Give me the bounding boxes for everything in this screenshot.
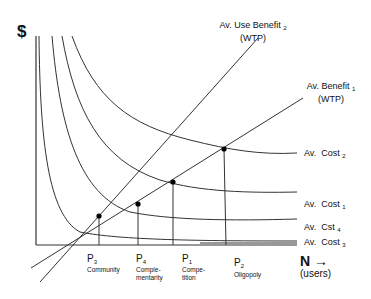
label-text: Av. Cst [304, 222, 335, 232]
y-axis-label: $ [17, 22, 26, 42]
p4-point [135, 201, 140, 206]
label-line2: (WTP) [318, 94, 344, 104]
desc-line1: Comple- [136, 266, 161, 273]
av-cost-3-label: Av. Cost 3 [304, 237, 346, 250]
p3-description: Community [87, 266, 120, 274]
point-letter: P [87, 253, 94, 264]
label-subscript: 3 [342, 242, 345, 248]
av-benefit-1-label: Av. Benefit 1 (WTP) [296, 81, 366, 104]
desc-line2: mentarity [136, 274, 163, 281]
p3-label: P3 [87, 253, 97, 265]
p1-point [170, 179, 175, 184]
desc-line1: Oligopoly [234, 271, 261, 278]
av-cost-1-curve [62, 36, 297, 192]
p2-point [221, 146, 226, 151]
p1-label: P1 [182, 253, 192, 265]
av-cst-4-label: Av. Cst 4 [304, 222, 341, 235]
label-text: Av. Cost [304, 148, 340, 158]
p2-label: P2 [234, 257, 244, 269]
p4-label: P4 [136, 253, 146, 265]
label-subscript: 2 [342, 153, 345, 159]
point-letter: P [182, 253, 189, 264]
label-text: Av. Benefit [307, 81, 350, 91]
point-subscript: 4 [143, 259, 146, 265]
x-axis-label: N → [300, 253, 328, 269]
p2-description: Oligopoly [234, 271, 261, 279]
label-subscript: 1 [342, 204, 345, 210]
p2-dropline [224, 149, 226, 245]
p4-description: Comple- mentarity [136, 266, 163, 282]
p1-description: Compe- tition [182, 266, 205, 282]
point-subscript: 2 [241, 263, 244, 269]
label-subscript: 4 [337, 227, 340, 233]
desc-line1: Community [87, 266, 120, 273]
p3-point [96, 213, 101, 218]
av-use-benefit-2-label: Av. Use Benefit 2 (WTP) [198, 20, 308, 43]
desc-line2: tition [182, 274, 196, 281]
x-axis-sublabel: (users) [300, 268, 331, 279]
av-cost-2-label: Av. Cost 2 [304, 148, 346, 161]
point-letter: P [136, 253, 143, 264]
label-subscript: 2 [283, 25, 286, 31]
point-subscript: 3 [94, 259, 97, 265]
point-letter: P [234, 257, 241, 268]
point-subscript: 1 [189, 259, 192, 265]
label-text: Av. Use Benefit [219, 20, 280, 30]
av-cost-2-curve [72, 36, 297, 153]
label-text: Av. Cost [304, 199, 340, 209]
label-subscript: 1 [352, 86, 355, 92]
label-line2: (WTP) [240, 33, 266, 43]
av-cost-1-label: Av. Cost 1 [304, 199, 346, 212]
label-text: Av. Cost [304, 237, 340, 247]
desc-line1: Compe- [182, 266, 205, 273]
